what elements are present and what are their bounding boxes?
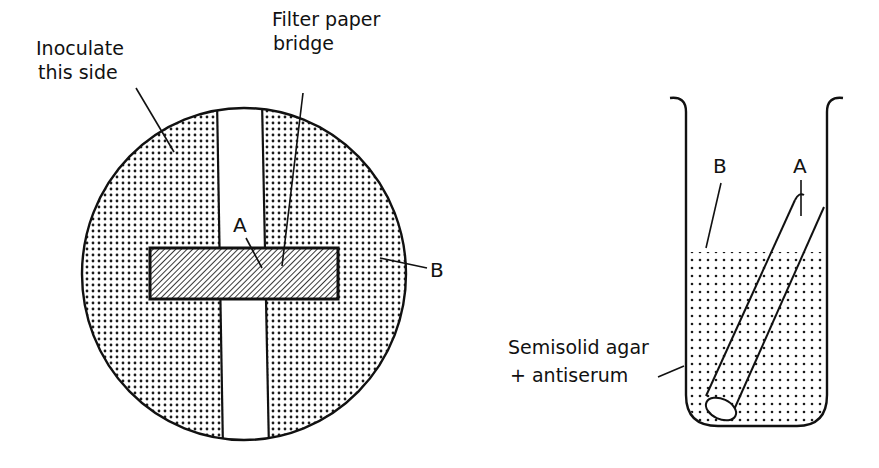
leader-agar — [658, 366, 684, 377]
label-filter-line2: bridge — [273, 32, 334, 55]
label-inoculate-line1: Inoculate — [36, 37, 124, 60]
label-plate-b: B — [430, 259, 444, 282]
label-agar-line2: + antiserum — [510, 364, 628, 387]
label-agar-line1: Semisolid agar — [508, 336, 649, 359]
label-inoculate-line2: this side — [38, 61, 118, 84]
test-tube — [658, 98, 843, 426]
diagram-canvas — [0, 0, 879, 468]
label-tube-b: B — [713, 155, 727, 178]
label-plate-a: A — [233, 214, 247, 237]
petri-plate — [82, 88, 427, 450]
filter-paper-bridge — [150, 248, 338, 299]
leader-tube-b — [706, 183, 721, 248]
label-filter-line1: Filter paper — [272, 8, 380, 31]
label-tube-a: A — [793, 155, 807, 178]
